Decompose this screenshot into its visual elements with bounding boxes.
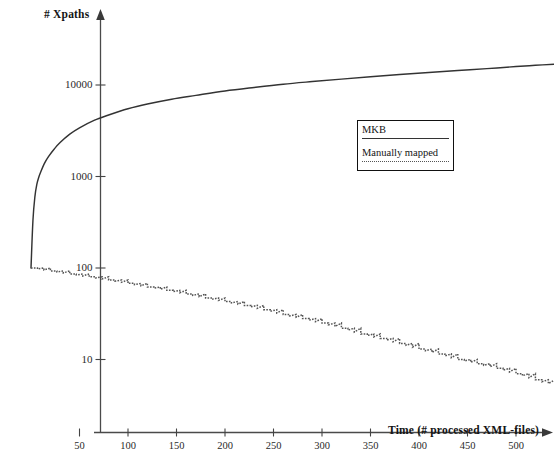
- x-tick-label: 100: [112, 440, 144, 451]
- y-tick-label: 1000: [71, 170, 93, 182]
- y-tick-label: 100: [76, 261, 93, 273]
- series-line-mkb: [31, 64, 554, 268]
- x-axis-title: Time (# processed XML-files): [388, 424, 539, 436]
- x-tick-label: 150: [161, 440, 193, 451]
- y-tick-label: 10: [82, 353, 93, 365]
- x-axis-arrow: [542, 428, 553, 437]
- legend-label-mkb: MKB: [362, 123, 449, 136]
- series-line-manually-mapped: [31, 268, 554, 385]
- y-axis: [96, 9, 105, 432]
- y-axis-title: # Xpaths: [44, 8, 89, 20]
- x-tick-label: 200: [209, 440, 241, 451]
- x-tick-label: 300: [306, 440, 338, 451]
- x-tick-label: 450: [452, 440, 484, 451]
- legend-entry-mkb: MKB: [362, 123, 449, 146]
- chart-legend: MKB Manually mapped: [357, 120, 454, 171]
- legend-entry-manually-mapped: Manually mapped: [362, 146, 449, 169]
- x-tick-label: 50: [64, 440, 96, 451]
- y-tick-label: 10000: [65, 78, 93, 90]
- x-tick-label: 400: [403, 440, 435, 451]
- x-tick-label: 350: [355, 440, 387, 451]
- x-tick-label: 500: [500, 440, 532, 451]
- legend-label-manually-mapped: Manually mapped: [362, 146, 449, 159]
- x-tick-label: 250: [258, 440, 290, 451]
- y-axis-arrow: [96, 9, 105, 20]
- chart-plot-area: [0, 0, 554, 468]
- legend-swatch-mkb: [362, 138, 449, 139]
- chart-figure: # Xpaths Time (# processed XML-files) 10…: [0, 0, 554, 468]
- legend-swatch-manually-mapped: [362, 161, 449, 162]
